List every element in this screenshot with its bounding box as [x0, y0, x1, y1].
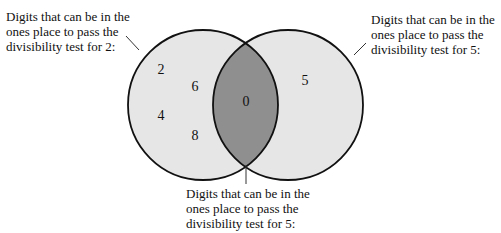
- element-6: 6: [192, 79, 199, 94]
- element-2: 2: [158, 62, 165, 77]
- left-set-label: Digits that can be in the ones place to …: [6, 9, 130, 54]
- leader-line-right: [354, 43, 366, 55]
- right-set-label: Digits that can be in the ones place to …: [371, 12, 495, 57]
- intersection-label: Digits that can be in the ones place to …: [186, 186, 310, 231]
- element-8: 8: [192, 128, 199, 143]
- element-0: 0: [243, 94, 250, 109]
- element-5: 5: [302, 73, 309, 88]
- element-4: 4: [158, 108, 165, 123]
